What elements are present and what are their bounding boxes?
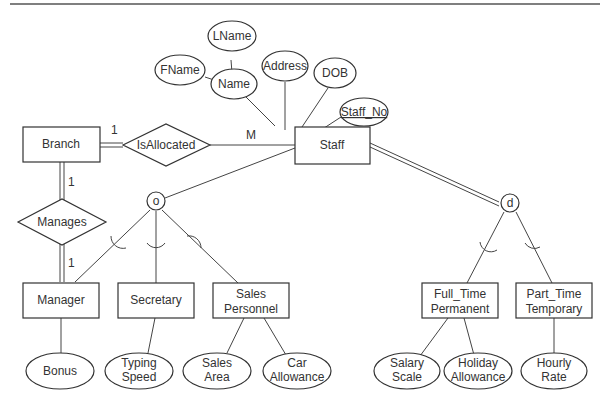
cardinality-branch-isallocated: 1	[111, 123, 118, 137]
attribute-fname: FName	[155, 55, 205, 85]
svg-text:Part_Time: Part_Time	[527, 287, 582, 301]
svg-text:Staff: Staff	[320, 138, 345, 152]
cardinality-branch-manages: 1	[68, 175, 75, 189]
relationship-isallocated: IsAllocated	[123, 124, 210, 166]
svg-text:Speed: Speed	[122, 370, 157, 384]
entity-branch: Branch	[23, 127, 100, 162]
specialization-disjoint: d	[501, 194, 519, 212]
attribute-car-allowance: Car Allowance	[263, 353, 331, 389]
svg-text:DOB: DOB	[322, 66, 348, 80]
svg-text:Manager: Manager	[37, 293, 84, 307]
svg-text:Salary: Salary	[390, 356, 424, 370]
entity-secretary: Secretary	[118, 283, 194, 318]
relationship-manages: Manages	[18, 199, 106, 245]
svg-text:Area: Area	[204, 370, 230, 384]
attribute-dob: DOB	[314, 58, 356, 88]
entity-full-time-permanent: Full_Time Permanent	[422, 283, 498, 318]
entity-manager: Manager	[23, 283, 99, 318]
svg-text:Typing: Typing	[121, 356, 156, 370]
svg-text:Permanent: Permanent	[431, 302, 490, 316]
svg-text:d: d	[507, 196, 514, 210]
svg-text:Staff_No: Staff_No	[341, 105, 388, 119]
entity-staff: Staff	[295, 127, 370, 164]
entity-sales-personnel: Sales Personnel	[213, 283, 289, 318]
svg-text:Full_Time: Full_Time	[434, 287, 487, 301]
svg-text:Hourly: Hourly	[537, 356, 572, 370]
svg-text:Holiday: Holiday	[458, 356, 498, 370]
svg-text:Personnel: Personnel	[224, 302, 278, 316]
attribute-hourly-rate: Hourly Rate	[521, 353, 587, 389]
svg-text:Manages: Manages	[37, 215, 86, 229]
svg-text:Address: Address	[263, 59, 307, 73]
svg-text:Name: Name	[218, 77, 250, 91]
svg-text:FName: FName	[160, 63, 200, 77]
attribute-sales-area: Sales Area	[183, 353, 251, 389]
cardinality-manager-manages: 1	[68, 256, 75, 270]
svg-text:Sales: Sales	[202, 356, 232, 370]
svg-text:Temporary: Temporary	[526, 302, 583, 316]
specialization-overlapping: o	[147, 192, 165, 210]
svg-text:IsAllocated: IsAllocated	[137, 138, 196, 152]
svg-text:Bonus: Bonus	[43, 364, 77, 378]
attribute-staff-no: Staff_No	[340, 98, 388, 126]
svg-text:Branch: Branch	[42, 137, 80, 151]
attribute-holiday-allowance: Holiday Allowance	[444, 353, 512, 389]
attribute-bonus: Bonus	[26, 353, 94, 389]
attribute-salary-scale: Salary Scale	[374, 353, 440, 389]
eer-diagram: LName FName Name Address DOB Staff_No Br…	[0, 0, 610, 409]
svg-text:Allowance: Allowance	[451, 370, 506, 384]
svg-text:Sales: Sales	[236, 287, 266, 301]
svg-text:Allowance: Allowance	[270, 370, 325, 384]
svg-text:LName: LName	[213, 29, 252, 43]
attribute-typing-speed: Typing Speed	[105, 353, 173, 389]
attribute-name: Name	[211, 69, 257, 99]
entity-part-time-temporary: Part_Time Temporary	[516, 283, 592, 318]
attribute-lname: LName	[208, 21, 256, 51]
svg-text:Rate: Rate	[541, 370, 567, 384]
cardinality-staff-isallocated: M	[246, 128, 256, 142]
attribute-address: Address	[262, 51, 308, 81]
svg-text:Secretary: Secretary	[130, 293, 181, 307]
svg-text:o: o	[153, 194, 160, 208]
svg-text:Scale: Scale	[392, 370, 422, 384]
svg-text:Car: Car	[287, 356, 306, 370]
